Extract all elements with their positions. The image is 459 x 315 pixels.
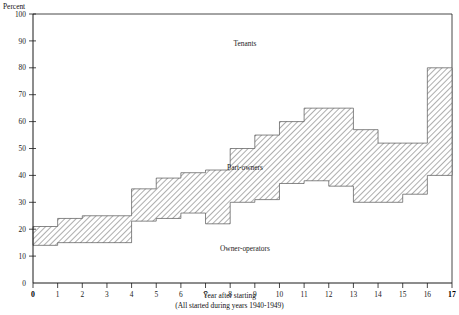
band-annotation-label: Owner-operators xyxy=(220,244,270,253)
y-axis-unit-label: Percent xyxy=(3,2,25,11)
y-axis: 0102030405060708090100 xyxy=(15,10,36,288)
y-tick-label: 60 xyxy=(19,117,27,126)
y-tick-label: 50 xyxy=(19,144,27,153)
y-tick-label: 40 xyxy=(19,171,27,180)
band-annotation-label: Tenants xyxy=(234,39,257,48)
y-tick-label: 20 xyxy=(19,225,27,234)
part-owners-band-area xyxy=(33,68,452,246)
x-axis-subtitle: (All started during years 1940-1949) xyxy=(0,301,459,310)
part-owners-band xyxy=(33,68,452,246)
y-tick-label: 80 xyxy=(19,63,27,72)
percent-tenure-area-chart: 0102030405060708090100 01234567891011121… xyxy=(0,0,459,315)
y-tick-label: 70 xyxy=(19,90,27,99)
y-tick-label: 30 xyxy=(19,198,27,207)
y-tick-label: 90 xyxy=(19,37,27,46)
x-axis-title: Year after starting xyxy=(0,291,459,300)
band-annotation-label: Part-owners xyxy=(227,163,263,172)
chart-container: 0102030405060708090100 01234567891011121… xyxy=(0,0,459,315)
y-tick-label: 10 xyxy=(19,252,27,261)
y-tick-label: 0 xyxy=(22,279,26,288)
